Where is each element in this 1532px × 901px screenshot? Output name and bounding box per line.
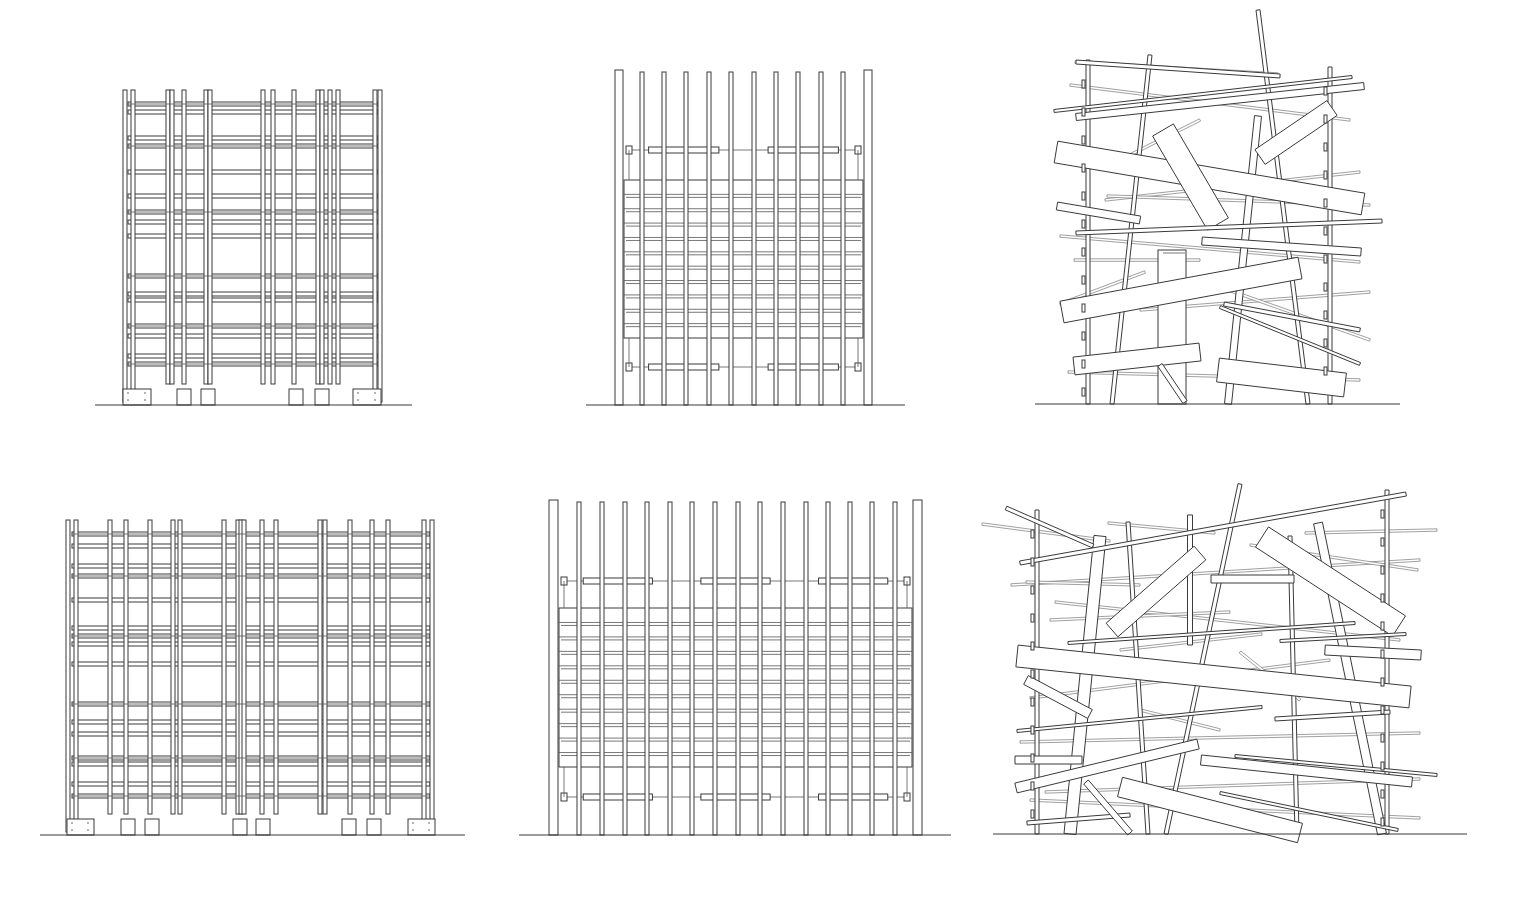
- column: [336, 90, 340, 384]
- tab: [1082, 164, 1085, 172]
- tab: [1381, 622, 1384, 630]
- bolt: [357, 399, 359, 401]
- rail-bracket: [768, 147, 838, 153]
- footing: [256, 819, 270, 835]
- tab: [1324, 199, 1327, 207]
- tab: [1324, 227, 1327, 235]
- tab: [1324, 283, 1327, 291]
- slat: [826, 502, 830, 835]
- end-post: [549, 500, 558, 835]
- rail-bracket: [768, 364, 838, 370]
- slat: [577, 502, 581, 835]
- column: [271, 90, 275, 384]
- tab: [1082, 192, 1085, 200]
- tab: [1031, 670, 1034, 678]
- plank: [1056, 202, 1140, 224]
- column: [430, 520, 434, 832]
- slat: [684, 72, 688, 405]
- slat: [848, 502, 852, 835]
- slat: [623, 502, 627, 835]
- slat: [893, 502, 897, 835]
- tab: [1031, 642, 1034, 650]
- column: [370, 520, 374, 814]
- tab: [1324, 171, 1327, 179]
- bolt: [71, 829, 73, 831]
- plank: [1217, 358, 1347, 397]
- footing: [367, 819, 381, 835]
- tab: [1324, 367, 1327, 375]
- slat: [752, 72, 756, 405]
- tab: [1381, 678, 1384, 686]
- slat: [662, 72, 666, 405]
- column: [222, 520, 226, 814]
- plank: [1211, 575, 1294, 583]
- end-post: [913, 500, 922, 835]
- end-post: [615, 70, 623, 405]
- column: [74, 520, 78, 832]
- slat: [600, 502, 604, 835]
- slat: [640, 72, 644, 405]
- bolt: [127, 392, 129, 394]
- tab: [1031, 698, 1034, 706]
- tab: [1324, 143, 1327, 151]
- bolt: [71, 822, 73, 824]
- column: [66, 520, 70, 832]
- panel-grid-elevation-top-left: [95, 90, 412, 405]
- column: [178, 520, 182, 814]
- column: [148, 520, 152, 814]
- slat: [841, 72, 845, 405]
- bolt: [428, 829, 430, 831]
- column: [318, 520, 322, 814]
- slat: [819, 72, 823, 405]
- bolt: [144, 392, 146, 394]
- bolt: [127, 399, 129, 401]
- footing: [233, 819, 247, 835]
- end-post: [864, 70, 872, 405]
- tab: [1381, 734, 1384, 742]
- infill-panel: [624, 180, 863, 338]
- column: [204, 90, 208, 384]
- panel-scattered-elevation-bottom-right: [982, 484, 1467, 843]
- slat: [645, 502, 649, 835]
- slat: [774, 72, 778, 405]
- slat: [804, 502, 808, 835]
- footing: [201, 389, 215, 405]
- tab: [1381, 650, 1384, 658]
- tab: [1381, 538, 1384, 546]
- panel-grid-elevation-bottom-left: [40, 520, 465, 835]
- slat: [707, 72, 711, 405]
- plank: [1202, 237, 1362, 256]
- tab: [1031, 586, 1034, 594]
- column: [208, 90, 212, 384]
- plank: [1020, 492, 1407, 565]
- tab: [1082, 220, 1085, 228]
- tab: [1381, 818, 1384, 826]
- tab: [1324, 311, 1327, 319]
- tab: [1082, 108, 1085, 116]
- column: [131, 90, 135, 402]
- tab: [1082, 248, 1085, 256]
- tab: [1031, 614, 1034, 622]
- panel-slat-elevation-top-center: [586, 70, 905, 405]
- bolt: [374, 392, 376, 394]
- plank: [1015, 756, 1082, 764]
- tab: [1031, 726, 1034, 734]
- column: [274, 520, 278, 814]
- tab: [1031, 782, 1034, 790]
- tab: [1082, 136, 1085, 144]
- column: [386, 520, 390, 814]
- tab: [1324, 115, 1327, 123]
- rail-bracket: [583, 578, 652, 584]
- elevation-drawings-sheet: [0, 0, 1532, 901]
- column: [373, 90, 377, 402]
- bolt: [374, 399, 376, 401]
- footing: [121, 819, 135, 835]
- bolt: [87, 829, 89, 831]
- tab: [1031, 530, 1034, 538]
- tab: [1031, 810, 1034, 818]
- plank: [1076, 60, 1280, 78]
- column: [422, 520, 426, 832]
- panel-slat-elevation-bottom-center: [519, 500, 951, 835]
- bolt: [412, 822, 414, 824]
- column: [348, 520, 352, 814]
